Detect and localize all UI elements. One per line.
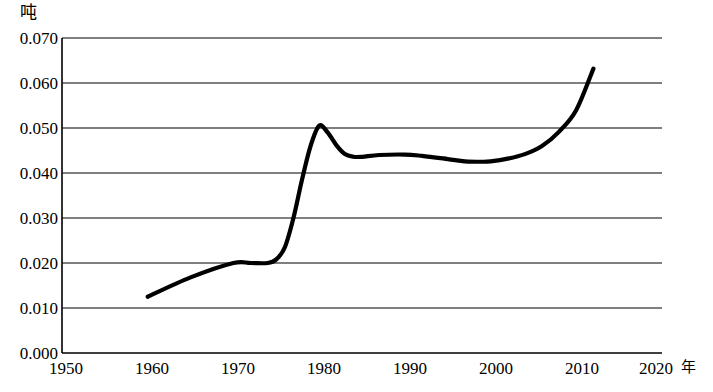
plot-area xyxy=(0,0,713,392)
axis-lines xyxy=(62,38,662,353)
chart-container: 吨 0.070 0.060 0.050 0.040 0.030 0.020 0.… xyxy=(0,0,713,392)
gridlines xyxy=(62,38,662,308)
